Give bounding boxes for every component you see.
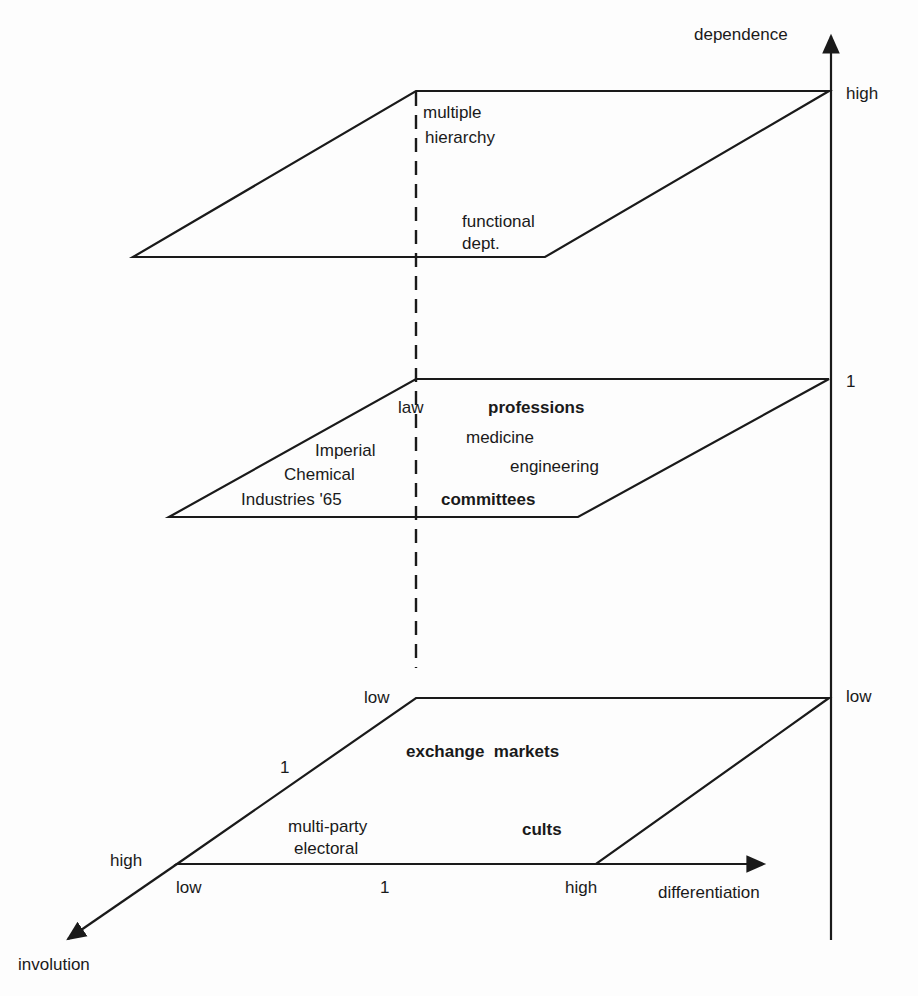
label-electoral: electoral bbox=[294, 839, 358, 858]
differentiation-tick-high: high bbox=[565, 878, 597, 897]
label-law: law bbox=[398, 398, 424, 417]
involution-axis bbox=[68, 864, 177, 939]
label-industries-65: Industries '65 bbox=[241, 490, 342, 509]
label-engineering: engineering bbox=[510, 457, 599, 476]
involution-tick-high: high bbox=[110, 851, 142, 870]
differentiation-tick-low: low bbox=[176, 878, 202, 897]
label-dept: dept. bbox=[462, 234, 500, 253]
involution-tick-low: low bbox=[364, 688, 390, 707]
label-imperial: Imperial bbox=[315, 441, 375, 460]
label-committees: committees bbox=[441, 490, 535, 509]
label-cults: cults bbox=[522, 820, 562, 839]
organization-space-diagram: dependence high 1 low differentiation lo… bbox=[0, 0, 918, 996]
bottom-plane bbox=[177, 698, 829, 864]
differentiation-tick-1: 1 bbox=[380, 878, 389, 897]
label-professions: professions bbox=[488, 398, 584, 417]
dependence-tick-1: 1 bbox=[846, 372, 855, 391]
label-functional: functional bbox=[462, 212, 535, 231]
dependence-axis-label: dependence bbox=[694, 25, 788, 44]
dependence-tick-low: low bbox=[846, 687, 872, 706]
involution-tick-1: 1 bbox=[280, 758, 289, 777]
dependence-tick-high: high bbox=[846, 84, 878, 103]
differentiation-axis-label: differentiation bbox=[658, 883, 760, 902]
label-exchange-markets: exchange markets bbox=[406, 742, 559, 761]
involution-axis-label: involution bbox=[18, 955, 90, 974]
diagram-canvas: dependence high 1 low differentiation lo… bbox=[0, 0, 918, 996]
label-hierarchy: hierarchy bbox=[425, 128, 495, 147]
label-medicine: medicine bbox=[466, 428, 534, 447]
label-multiple: multiple bbox=[423, 103, 482, 122]
label-chemical: Chemical bbox=[284, 465, 355, 484]
label-multi-party: multi-party bbox=[288, 817, 368, 836]
